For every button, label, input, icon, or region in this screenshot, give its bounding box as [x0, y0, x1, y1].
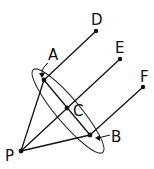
label-D: D: [91, 11, 103, 29]
label-F: F: [140, 68, 149, 86]
label-E: E: [115, 39, 124, 57]
point-D: [94, 29, 98, 33]
arrowhead-A: [39, 73, 45, 78]
geometry-diagram: D E F A C B P: [0, 0, 154, 169]
ellipse: [24, 62, 112, 160]
point-B: [88, 133, 93, 138]
point-P: [19, 149, 24, 154]
label-C: C: [73, 102, 83, 120]
label-A: A: [48, 46, 59, 64]
point-C: [65, 106, 70, 111]
label-B: B: [111, 128, 121, 146]
label-P: P: [5, 147, 14, 165]
arrowhead-B: [95, 135, 100, 141]
point-E: [118, 57, 122, 61]
point-A: [42, 78, 47, 83]
line-PB: [21, 135, 90, 151]
